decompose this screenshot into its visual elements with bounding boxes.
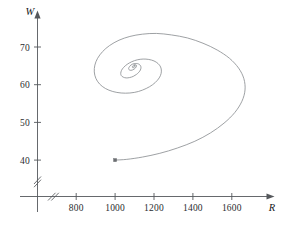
- x-axis-arrow-icon: [267, 193, 275, 199]
- x-tick-label-800: 800: [69, 203, 84, 213]
- trajectory-curve: [94, 33, 245, 160]
- x-tick-label-1400: 1400: [183, 203, 203, 213]
- y-tick-label-40: 40: [20, 156, 30, 166]
- y-axis-label: W: [26, 6, 36, 17]
- x-tick-label-1200: 1200: [144, 203, 164, 213]
- x-axis-label: R: [268, 202, 276, 213]
- phase-plane-figure: 70 60 50 40 800 1000 1200 1400 1600 W R: [0, 0, 288, 228]
- y-tick-label-50: 50: [20, 118, 30, 128]
- x-tick-label-1000: 1000: [105, 203, 125, 213]
- y-tick-label-70: 70: [20, 43, 30, 53]
- plot-canvas: 70 60 50 40 800 1000 1200 1400 1600 W R: [0, 0, 288, 228]
- y-tick-label-60: 60: [20, 80, 30, 90]
- y-axis-arrow-icon: [34, 11, 40, 19]
- trajectory-group: [94, 33, 245, 161]
- start-point-marker: [114, 159, 117, 162]
- x-tick-label-1600: 1600: [222, 203, 242, 213]
